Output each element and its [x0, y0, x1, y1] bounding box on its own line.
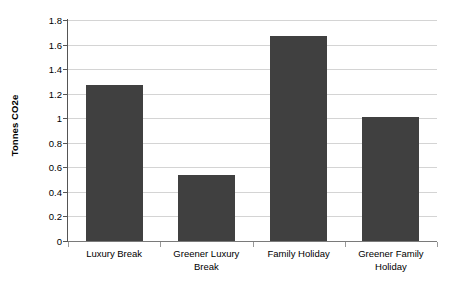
y-axis-title-text: Tonnes CO2e: [10, 94, 21, 156]
y-axis-tick-label: 0.6: [28, 162, 62, 173]
x-axis-tick-mark: [345, 242, 346, 247]
y-axis-tick-mark: [63, 216, 68, 217]
y-axis-tick-mark: [63, 192, 68, 193]
y-axis-tick-label: 0.4: [28, 186, 62, 197]
gridline: [68, 20, 437, 21]
y-axis-tick-mark: [63, 167, 68, 168]
y-axis-tick-mark: [63, 45, 68, 46]
y-axis-tick-label: 0: [28, 236, 62, 247]
bar: [362, 117, 419, 241]
x-axis-tick-mark: [160, 242, 161, 247]
bar: [86, 85, 143, 241]
y-axis-tick-mark: [63, 118, 68, 119]
bar: [270, 36, 327, 241]
y-axis-tick-mark: [63, 69, 68, 70]
x-axis-tick-label: Luxury Break: [68, 248, 160, 261]
y-axis-tick-label: 1.4: [28, 64, 62, 75]
x-axis-tick-label: Greener Luxury Break: [160, 248, 252, 273]
y-axis-tick-label: 0.2: [28, 211, 62, 222]
bar: [178, 175, 235, 241]
x-axis-tick-mark: [437, 242, 438, 247]
bar-chart: Tonnes CO2e 00.20.40.60.811.21.41.61.8 L…: [0, 0, 454, 290]
y-axis-tick-label: 1.8: [28, 15, 62, 26]
gridline: [68, 45, 437, 46]
y-axis-tick-mark: [63, 94, 68, 95]
x-axis-tick-label: Greener Family Holiday: [345, 248, 437, 273]
y-axis-tick-mark: [63, 20, 68, 21]
x-axis-tick-mark: [253, 242, 254, 247]
y-axis-tick-label: 1.6: [28, 39, 62, 50]
x-axis-tick-label: Family Holiday: [253, 248, 345, 261]
y-axis-tick-label: 1: [28, 113, 62, 124]
y-axis-title: Tonnes CO2e: [0, 0, 30, 250]
x-axis-tick-mark: [68, 242, 69, 247]
y-axis-tick-mark: [63, 143, 68, 144]
y-axis-tick-label: 1.2: [28, 88, 62, 99]
plot-area: [68, 20, 437, 241]
y-axis-tick-label: 0.8: [28, 137, 62, 148]
x-axis-tick-labels: Luxury BreakGreener Luxury BreakFamily H…: [68, 248, 437, 290]
gridline: [68, 69, 437, 70]
y-axis-tick-labels: 00.20.40.60.811.21.41.61.8: [28, 20, 62, 241]
